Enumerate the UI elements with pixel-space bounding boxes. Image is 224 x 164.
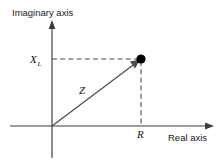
- phasor-diagram-svg: Imaginary axis Real axis X L Z R: [0, 0, 224, 164]
- impedance-vector-line: [52, 62, 137, 126]
- real-axis-arrowhead: [205, 123, 214, 130]
- impedance-point-dot: [136, 54, 145, 63]
- impedance-label: Z: [79, 84, 86, 96]
- phasor-diagram-figure: Imaginary axis Real axis X L Z R: [0, 0, 224, 164]
- imaginary-axis-label: Imaginary axis: [12, 7, 73, 18]
- real-axis-label: Real axis: [168, 132, 207, 143]
- imaginary-axis-arrowhead: [49, 20, 56, 29]
- resistance-label: R: [136, 128, 144, 140]
- reactance-subscript-label: L: [37, 60, 42, 68]
